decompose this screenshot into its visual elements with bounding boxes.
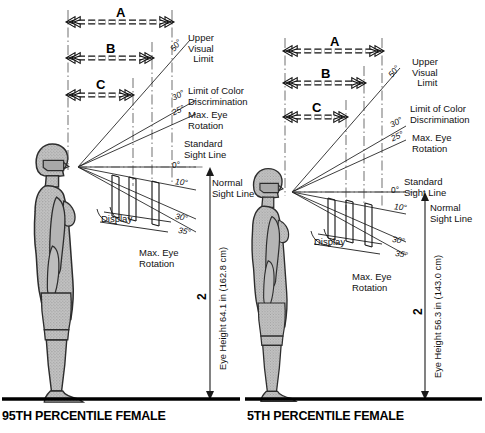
sight-line-30-right — [292, 126, 406, 192]
callout-upper-visual-limit-right: Upper Visual Limit — [412, 57, 438, 89]
dimension-label-C-left: C — [96, 78, 105, 93]
angle-label-10-left: 10° — [175, 177, 189, 188]
callout-standard-sight-line-right: Standard Sight Line — [404, 177, 446, 198]
caption-left: 95TH PERCENTILE FEMALE — [2, 409, 166, 423]
sight-line-fan-left — [78, 40, 196, 232]
sight-line-10-right — [292, 192, 406, 214]
sight-line-25-right — [292, 140, 406, 192]
angle-label-10-right: 10° — [394, 202, 408, 213]
figure-number-left: 2 — [196, 293, 209, 300]
human-figure-5th — [252, 169, 296, 402]
dimension-label-A-right: A — [330, 35, 339, 50]
callout-limit-of-color-right: Limit of Color Discrimination — [410, 104, 470, 125]
callout-limit-of-color-left: Limit of Color Discrimination — [188, 86, 248, 107]
callout-max-eye-rotation-lower-left: Max. Eye Rotation — [139, 248, 179, 269]
callout-normal-sight-line-left: Normal Sight Line — [212, 178, 254, 199]
callout-display-left: Display — [101, 214, 132, 225]
callout-upper-visual-limit-left: Upper Visual Limit — [188, 33, 214, 65]
angle-label-0-right: 0° — [391, 186, 399, 195]
sight-line-fan-right — [292, 68, 406, 255]
figure-number-right: 2 — [412, 308, 425, 315]
dimension-label-B-left: B — [106, 42, 115, 57]
eye-height-dimension-right — [421, 192, 429, 400]
dimension-label-B-right: B — [321, 67, 330, 82]
dimension-label-A-left: A — [116, 6, 125, 21]
diagram-canvas: A B C Upper Visual Limit Limit of Color … — [0, 0, 485, 433]
dimension-label-C-right: C — [312, 101, 321, 116]
callout-max-eye-rotation-lower-right: Max. Eye Rotation — [352, 272, 392, 293]
angle-label-0-left: 0° — [172, 161, 180, 170]
eye-height-label-left: Eye Height 64.1 in (162.8 cm) — [218, 247, 228, 370]
human-figure-95th — [34, 144, 83, 402]
eye-height-label-right: Eye Height 56.3 in (143.0 cm) — [433, 255, 443, 378]
callout-max-eye-rotation-upper-left: Max. Eye Rotation — [188, 110, 228, 131]
caption-right: 5TH PERCENTILE FEMALE — [247, 409, 404, 423]
callout-max-eye-rotation-upper-right: Max. Eye Rotation — [412, 133, 452, 154]
panel-left-figure — [2, 10, 240, 402]
reference-lines-right — [285, 38, 382, 210]
callout-normal-sight-line-right: Normal Sight Line — [430, 203, 472, 224]
callout-display-right: Display — [314, 237, 345, 248]
callout-standard-sight-line-left: Standard Sight Line — [184, 139, 226, 160]
sight-line-30-lower-right — [292, 192, 406, 242]
eye-height-dimension-left — [206, 167, 214, 400]
